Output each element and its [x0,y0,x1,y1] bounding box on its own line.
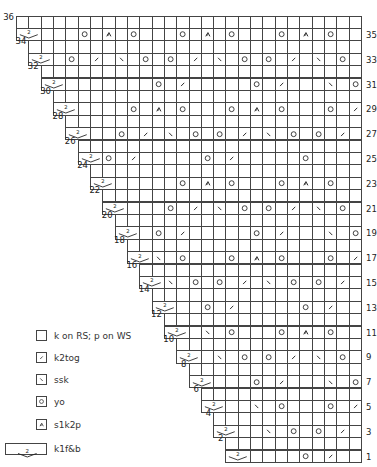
stitch-cell [250,301,263,314]
stitch-cell [336,288,349,301]
yarn-over-icon [239,203,250,214]
stitch-cell [176,164,189,177]
stitch-cell [349,102,362,115]
stitch-cell [225,301,238,314]
ssk-icon [214,54,225,65]
stitch-cell [176,28,189,41]
stitch-cell [262,177,275,190]
svg-text:2: 2 [26,448,30,454]
stitch-cell [287,437,300,450]
stitch-cell [127,28,140,41]
stitch-cell [262,264,275,277]
yarn-over-icon [226,178,237,189]
stitch-cell [189,53,202,66]
yarn-over-icon [337,351,348,362]
svg-text:2: 2 [101,179,104,185]
stitch-cell [238,164,251,177]
stitch-cell [287,78,300,91]
stitch-cell [312,350,325,363]
legend-label: yo [54,397,65,407]
svg-text:2: 2 [200,377,203,383]
stitch-cell [262,388,275,401]
stitch-cell [152,288,165,301]
stitch-cell [213,78,226,91]
stitch-cell [287,412,300,425]
row-number-label: 28 [51,111,63,121]
stitch-cell [139,115,152,128]
stitch-cell [312,102,325,115]
stitch-cell [287,276,300,289]
yarn-over-icon [325,327,336,338]
stitch-cell [65,115,78,128]
stitch-cell [275,65,288,78]
stitch-cell [164,214,177,227]
k2tog-icon [128,153,139,164]
stitch-cell [262,251,275,264]
stitch-cell [299,350,312,363]
stitch-cell [250,115,263,128]
stitch-cell [201,313,214,326]
yarn-over-icon [251,227,262,238]
yarn-over-icon [128,103,139,114]
svg-text:2: 2 [126,228,129,234]
row-number-label: 6 [187,384,199,394]
stitch-cell [176,226,189,239]
yarn-over-icon [79,29,90,40]
stitch-cell [275,127,288,140]
yarn-over-icon [313,426,324,437]
stitch-cell [90,53,103,66]
yarn-over-icon [337,203,348,214]
stitch-cell [275,214,288,227]
stitch-cell [287,251,300,264]
stitch-cell [164,78,177,91]
row-number-label: 32 [27,61,39,71]
stitch-cell [213,90,226,103]
stitch-cell [349,115,362,128]
legend-label: k on RS; p on WS [54,331,131,341]
stitch-cell [336,127,349,140]
k2tog-icon [177,227,188,238]
stitch-cell [238,40,251,53]
stitch-cell [127,239,140,252]
stitch-cell [287,65,300,78]
stitch-cell [213,152,226,165]
stitch-cell [299,189,312,202]
stitch-cell [53,53,66,66]
stitch-cell [90,164,103,177]
s1k2p-icon [300,29,311,40]
ssk-icon [325,79,336,90]
stitch-cell [349,388,362,401]
stitch-cell [90,115,103,128]
stitch-cell [53,65,66,78]
stitch-cell [139,164,152,177]
stitch-cell [275,437,288,450]
stitch-cell [349,177,362,190]
ssk-icon [313,351,324,362]
stitch-cell [41,40,54,53]
stitch-cell [349,214,362,227]
stitch-cell [176,127,189,140]
stitch-cell [349,400,362,413]
stitch-cell [275,28,288,41]
stitch-cell [275,400,288,413]
stitch-cell [115,102,128,115]
stitch-cell [213,164,226,177]
ssk-icon [116,54,127,65]
stitch-cell [250,140,263,153]
stitch-cell [349,189,362,202]
svg-text:2: 2 [187,352,190,358]
yarn-over-icon [263,54,274,65]
stitch-cell [262,127,275,140]
stitch-cell [324,388,337,401]
stitch-cell [324,450,337,463]
stitch-cell [287,214,300,227]
stitch-cell [250,375,263,388]
stitch-cell [41,28,54,41]
stitch-cell [299,412,312,425]
stitch-cell [127,127,140,140]
stitch-cell [299,53,312,66]
stitch-cell [250,65,263,78]
stitch-cell [225,214,238,227]
stitch-cell [336,226,349,239]
stitch-cell [312,90,325,103]
